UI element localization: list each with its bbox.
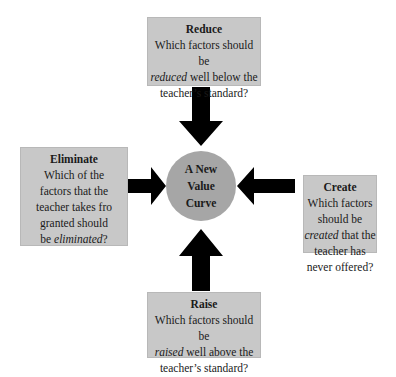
raise-line-2: raised well above the bbox=[148, 344, 260, 360]
eliminate-line-5: be eliminated? bbox=[21, 231, 127, 247]
create-box: Create Which factors should be created t… bbox=[303, 175, 377, 253]
eliminate-pre: be bbox=[40, 233, 54, 245]
reduce-line-1: Which factors should be bbox=[148, 37, 260, 69]
raise-line-3: teacher’s standard? bbox=[148, 360, 260, 376]
eliminate-line-3: teacher takes fro bbox=[21, 199, 127, 215]
eliminate-line-4: granted should bbox=[21, 215, 127, 231]
eliminate-line-1: Which of the bbox=[21, 167, 127, 183]
raise-box: Raise Which factors should be raised wel… bbox=[147, 292, 261, 358]
create-post: that the bbox=[339, 229, 376, 241]
raise-line-1: Which factors should be bbox=[148, 312, 260, 344]
reduce-post: well below the bbox=[187, 71, 258, 83]
eliminate-line-2: factors that the bbox=[21, 183, 127, 199]
reduce-line-2: reduced well below the bbox=[148, 69, 260, 85]
create-line-3: created that the bbox=[304, 227, 376, 243]
raise-emph: raised bbox=[155, 346, 184, 358]
reduce-emph: reduced bbox=[150, 71, 187, 83]
reduce-title: Reduce bbox=[148, 21, 260, 37]
value-curve-circle: A New Value Curve bbox=[166, 151, 236, 221]
arrow-left-from-create bbox=[237, 167, 295, 205]
create-line-4: teacher has bbox=[304, 243, 376, 259]
create-line-5: never offered? bbox=[304, 259, 376, 275]
raise-post: well above the bbox=[183, 346, 253, 358]
raise-title: Raise bbox=[148, 296, 260, 312]
create-line-1: Which factors bbox=[304, 195, 376, 211]
eliminate-emph: eliminated bbox=[54, 233, 103, 245]
center-line-2: Value bbox=[166, 178, 236, 195]
eliminate-title: Eliminate bbox=[21, 151, 127, 167]
center-line-1: A New bbox=[166, 161, 236, 178]
create-line-2: should be bbox=[304, 211, 376, 227]
reduce-box: Reduce Which factors should be reduced w… bbox=[147, 17, 261, 86]
eliminate-box: Eliminate Which of the factors that the … bbox=[20, 147, 128, 246]
create-title: Create bbox=[304, 179, 376, 195]
arrow-up-from-raise bbox=[179, 229, 223, 291]
arrow-right-from-eliminate bbox=[128, 167, 166, 205]
center-line-3: Curve bbox=[166, 195, 236, 212]
reduce-line-3: teacher’s standard? bbox=[148, 85, 260, 101]
eliminate-post: ? bbox=[103, 233, 108, 245]
create-emph: created bbox=[304, 229, 338, 241]
